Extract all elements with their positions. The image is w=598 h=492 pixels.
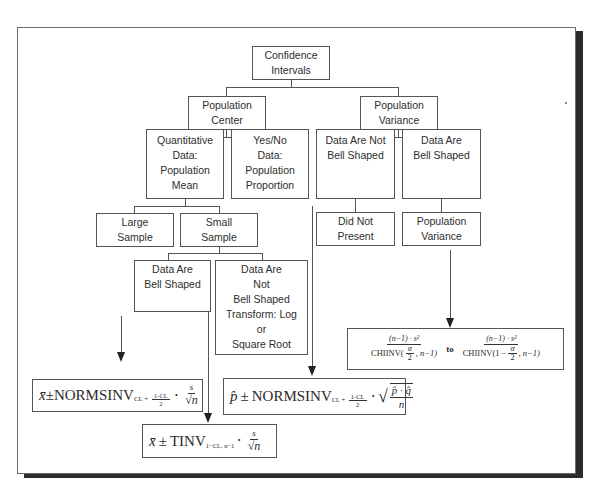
formula-symbol: ± <box>46 387 54 404</box>
connector <box>355 198 356 212</box>
node-not-bell-shaped-small: Data Are Not Bell Shaped Transform: Log … <box>215 260 308 355</box>
formula-text: 2 <box>157 400 164 407</box>
node-quantitative-mean: Quantitative Data: Population Mean <box>146 129 224 199</box>
node-text: Population <box>189 98 265 113</box>
formula-fraction: (n−1) · s² CHIINV(1 −α2, n−1) <box>461 335 542 363</box>
formula-subscript: CL + 1-CL2 <box>134 392 172 407</box>
formula-function: NORMSINV <box>54 387 134 404</box>
formula-fraction: α2 <box>508 345 516 364</box>
node-text: Population <box>147 163 223 178</box>
node-text: Present <box>317 229 394 244</box>
formula-symbol: x̄ <box>39 387 46 404</box>
node-text: Population <box>361 98 437 113</box>
node-text: Sample <box>97 230 173 245</box>
formula-variance: (n−1) · s² CHIINV(α2, n−1) to (n−1) · s²… <box>347 328 564 370</box>
node-text: Data Are <box>135 262 210 277</box>
node-text: Transform: Log <box>216 307 307 322</box>
arrow-line-large <box>121 316 122 354</box>
connector <box>398 87 399 96</box>
node-yesno-proportion: Yes/No Data: Population Proportion <box>231 129 309 199</box>
formula-symbol: · <box>371 388 376 406</box>
connector <box>262 253 263 260</box>
node-large-sample: Large Sample <box>96 213 174 247</box>
formula-symbol: · <box>236 432 241 450</box>
arrow-down-icon <box>446 318 454 328</box>
formula-symbol: ± <box>159 433 167 450</box>
formula-symbol: ± <box>241 388 249 405</box>
speck <box>565 102 567 104</box>
node-text: Population <box>403 214 480 229</box>
connector <box>226 87 227 96</box>
node-text: Did Not <box>317 214 394 229</box>
formula-text: CHIINV( <box>371 348 404 358</box>
node-text: Variance <box>361 113 437 128</box>
formula-symbol: · <box>174 387 179 405</box>
formula-text: 1-CL <box>152 392 170 400</box>
node-text: Proportion <box>232 178 308 193</box>
node-text: Data: <box>232 148 308 163</box>
node-text: Data: <box>147 148 223 163</box>
arrow-down-icon <box>308 366 316 376</box>
node-text: Intervals <box>253 63 329 78</box>
formula-subscript: 1−CL, n−1 <box>206 442 235 449</box>
connector <box>134 206 219 207</box>
formula-symbol: x̄ <box>149 433 156 450</box>
connector <box>185 198 186 206</box>
formula-text: CHIINV(1 −α2, n−1) <box>461 345 542 364</box>
formula-text: 2 <box>509 354 517 363</box>
node-bell-shaped-variance: Data Are Bell Shaped <box>402 129 481 199</box>
node-text: Yes/No <box>232 133 308 148</box>
connector <box>291 79 292 87</box>
formula-text: CL + <box>134 395 148 403</box>
node-did-not-present: Did Not Present <box>316 212 395 246</box>
connector <box>134 206 135 213</box>
formula-text: √n <box>183 394 200 407</box>
node-small-sample: Small Sample <box>180 213 258 247</box>
node-not-bell-shaped-variance: Data Are Not Bell Shaped <box>316 129 395 199</box>
node-text: Population <box>232 163 308 178</box>
connector <box>168 253 169 260</box>
formula-fraction: s√n <box>246 429 263 453</box>
formula-fraction: p̂ · q̂n <box>390 383 413 409</box>
node-confidence-intervals: Confidence Intervals <box>252 46 330 80</box>
formula-fraction: s√n <box>183 383 200 407</box>
formula-function: TINV <box>170 433 206 450</box>
node-text: Square Root <box>216 337 307 352</box>
node-text: Mean <box>147 178 223 193</box>
node-text: Data Are <box>403 133 480 148</box>
arrow-line-variance <box>450 250 451 319</box>
formula-fraction: α2 <box>406 345 414 364</box>
connector <box>226 129 227 137</box>
arrow-line-bell-small <box>208 311 209 414</box>
node-text: Not <box>216 277 307 292</box>
formula-subscript: CL + 1-CL2 <box>332 393 369 408</box>
node-text: Confidence <box>253 48 329 63</box>
formula-text: to <box>446 344 454 354</box>
node-text: Center <box>189 113 265 128</box>
formula-text: , n−1) <box>519 348 540 358</box>
node-text: Sample <box>181 230 257 245</box>
formula-text: CHIINV(1 − <box>463 348 507 358</box>
node-population-center: Population Center <box>188 96 266 130</box>
connector <box>168 253 262 254</box>
arrow-line-yesno <box>312 206 313 366</box>
formula-text: √n <box>246 440 263 453</box>
node-bell-shaped-small: Data Are Bell Shaped <box>134 260 211 312</box>
formula-fraction: 1-CL2 <box>349 393 367 408</box>
formula-text: 1-CL <box>349 393 367 401</box>
formula-proportion: p̂ ± NORMSINV CL + 1-CL2 · √ p̂ · q̂n <box>223 378 406 415</box>
node-text: Quantitative <box>147 133 223 148</box>
node-text: Large <box>97 215 173 230</box>
node-population-variance: Population Variance <box>360 96 438 130</box>
formula-small-sample-mean: x̄ ± TINV 1−CL, n−1 · s√n <box>142 424 277 458</box>
formula-text: n <box>397 398 407 410</box>
node-text: or <box>216 322 307 337</box>
connector <box>441 198 442 212</box>
connector <box>398 129 399 137</box>
formula-symbol: p̂ <box>230 388 238 405</box>
connector <box>226 87 398 88</box>
formula-text: 2 <box>406 354 414 363</box>
arrow-down-icon <box>204 413 212 423</box>
node-text: Small <box>181 215 257 230</box>
formula-text: CHIINV(α2, n−1) <box>369 345 439 364</box>
